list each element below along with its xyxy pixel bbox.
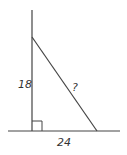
horizontal-side-label: 24 <box>57 136 71 149</box>
triangle-diagram: 18 ? 24 <box>0 0 127 155</box>
right-angle-marker <box>32 121 42 131</box>
vertical-side-label: 18 <box>18 78 32 91</box>
hypotenuse-label: ? <box>72 81 78 94</box>
hypotenuse-line <box>32 37 97 131</box>
